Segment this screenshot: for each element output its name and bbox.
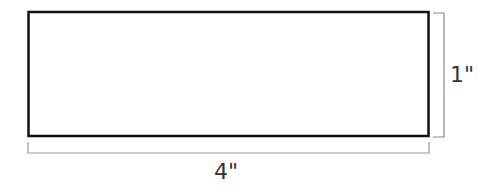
width-label: 4" [214,161,238,183]
rectangle-shape [29,12,429,136]
width-dimension-bracket [28,142,429,153]
diagram-canvas [0,0,491,192]
height-label: 1" [450,64,474,86]
height-dimension-bracket [433,13,444,137]
